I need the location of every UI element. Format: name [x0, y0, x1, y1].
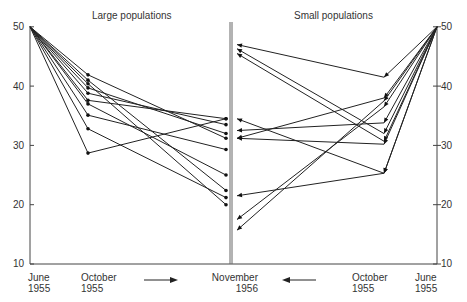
- y-tick-50-right: 50: [441, 21, 452, 32]
- x-label-june-right: June1955: [415, 272, 437, 294]
- chart-canvas: [0, 0, 467, 302]
- y-tick-30-right: 30: [441, 140, 452, 151]
- y-tick-40-left: 40: [13, 81, 24, 92]
- y-tick-10-left: 10: [13, 258, 24, 269]
- left-panel-title: Large populations: [92, 10, 172, 21]
- y-tick-40-right: 40: [441, 81, 452, 92]
- x-label-october-left: October1955: [81, 272, 117, 294]
- x-label-october-right: October1955: [352, 272, 388, 294]
- y-tick-30-left: 30: [13, 140, 24, 151]
- y-tick-20-left: 20: [13, 199, 24, 210]
- y-tick-10-right: 10: [441, 258, 452, 269]
- y-tick-20-right: 20: [441, 199, 452, 210]
- right-panel-title: Small populations: [294, 10, 373, 21]
- x-label-november: November1956: [208, 272, 258, 294]
- x-label-june-left: June1955: [28, 272, 50, 294]
- y-tick-50-left: 50: [13, 21, 24, 32]
